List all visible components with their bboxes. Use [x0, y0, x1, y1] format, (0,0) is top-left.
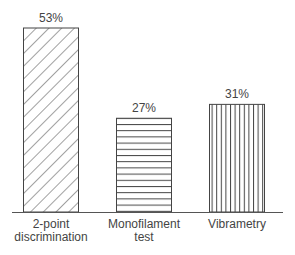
category-label-2-point-discrimination: 2-pointdiscrimination — [14, 217, 87, 244]
bar-vibrametry — [210, 104, 265, 212]
bar-monofilament-test — [117, 118, 172, 212]
value-label-2-point-discrimination: 53% — [39, 11, 63, 25]
bars-group — [24, 28, 265, 212]
bar-chart: 53%2-pointdiscrimination27%Monofilamentt… — [0, 0, 295, 255]
bar-2-point-discrimination — [24, 28, 79, 212]
value-label-monofilament-test: 27% — [132, 101, 156, 115]
category-label-monofilament-test: Monofilamenttest — [108, 217, 181, 244]
value-label-vibrametry: 31% — [225, 87, 249, 101]
category-label-vibrametry: Vibrametry — [208, 217, 266, 231]
